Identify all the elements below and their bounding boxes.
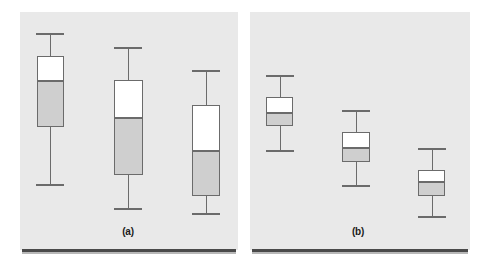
box-b1-lower-cap [266, 150, 294, 152]
box-a2-median-line [114, 117, 143, 119]
box-a2-lower-whisker [128, 175, 129, 208]
box-b1-lower-quartile-fill [266, 112, 293, 126]
box-a3-upper-whisker [206, 70, 207, 105]
box-a3-lower-cap [192, 213, 220, 215]
box-a3-upper-cap [192, 70, 220, 72]
box-a1-lower-cap [36, 184, 64, 186]
box-b1-upper-whisker [280, 75, 281, 97]
box-a1-lower-quartile-fill [37, 80, 64, 127]
box-a2-lower-cap [114, 208, 142, 210]
box-b2-lower-quartile-fill [342, 147, 370, 162]
box-a1-median-line [37, 80, 64, 82]
box-b3-lower-cap [418, 216, 446, 218]
box-b1-median-line [266, 112, 293, 114]
box-b3-median-line [418, 181, 445, 183]
box-a1-upper-whisker [50, 33, 51, 56]
panel-b [250, 12, 470, 250]
box-a1-lower-whisker [50, 127, 51, 184]
box-b1-upper-cap [266, 75, 294, 77]
box-a1-upper-cap [36, 33, 64, 35]
box-a3-median-line [192, 150, 220, 152]
box-b3-upper-cap [418, 148, 446, 150]
panel-a-baseline-rule-shadow [22, 252, 236, 254]
panel-a-label: (a) [103, 226, 153, 237]
box-b2-median-line [342, 147, 370, 149]
box-b2-upper-whisker [356, 110, 357, 132]
box-a2-upper-whisker [128, 47, 129, 80]
box-b3-lower-quartile-fill [418, 181, 445, 196]
box-a2-upper-cap [114, 47, 142, 49]
box-b3-upper-whisker [432, 148, 433, 170]
box-b2-lower-cap [342, 185, 370, 187]
box-a3-lower-quartile-fill [192, 150, 220, 196]
boxplot-figure: (a)(b) [0, 0, 481, 270]
box-b2-lower-whisker [356, 162, 357, 185]
box-b3-lower-whisker [432, 196, 433, 216]
panel-b-baseline-rule-shadow [252, 252, 468, 254]
box-b1-lower-whisker [280, 126, 281, 150]
box-b2-upper-cap [342, 110, 370, 112]
panel-b-label: (b) [333, 226, 383, 237]
box-a2-lower-quartile-fill [114, 117, 143, 175]
box-a3-lower-whisker [206, 196, 207, 213]
